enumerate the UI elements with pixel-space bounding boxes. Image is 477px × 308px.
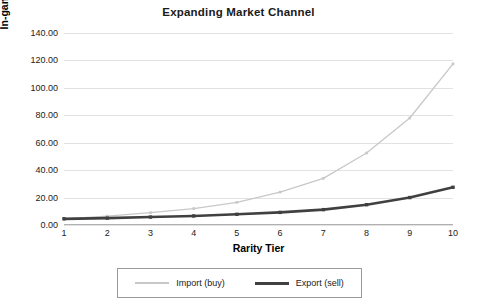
data-point-marker: [278, 211, 281, 214]
y-tick-label: 120.00: [30, 55, 58, 65]
y-tick-label: 60.00: [35, 138, 58, 148]
data-point-marker: [149, 211, 152, 214]
data-point-marker: [106, 216, 109, 219]
data-point-marker: [408, 117, 411, 120]
x-tick-label: 8: [364, 228, 369, 238]
chart-legend: Import (buy) Export (sell): [117, 268, 362, 298]
plot-area: [64, 33, 453, 225]
data-point-marker: [192, 207, 195, 210]
x-tick-label: 10: [448, 228, 458, 238]
y-axis-tick-labels: 0.0020.0040.0060.0080.00100.00120.00140.…: [0, 33, 58, 225]
legend-swatch-export-icon: [255, 282, 289, 285]
series-line: [64, 187, 453, 219]
data-point-marker: [451, 186, 454, 189]
y-tick-label: 20.00: [35, 193, 58, 203]
y-tick-label: 40.00: [35, 165, 58, 175]
data-point-marker: [452, 63, 455, 66]
data-point-marker: [365, 203, 368, 206]
data-point-marker: [149, 215, 152, 218]
chart-title: Expanding Market Channel: [0, 6, 477, 18]
x-tick-label: 7: [321, 228, 326, 238]
legend-swatch-import-icon: [135, 282, 169, 284]
x-axis-tick-labels: 12345678910: [64, 228, 453, 242]
x-axis-title: Rarity Tier: [64, 242, 453, 254]
legend-item-export[interactable]: Export (sell): [255, 278, 344, 288]
legend-label-import: Import (buy): [176, 278, 225, 288]
series-line: [64, 64, 453, 219]
data-point-marker: [322, 208, 325, 211]
legend-item-import[interactable]: Import (buy): [135, 278, 225, 288]
chart-container: Expanding Market Channel In-game Pricing…: [0, 0, 477, 308]
data-point-marker: [279, 191, 282, 194]
y-tick-label: 0.00: [40, 220, 58, 230]
data-point-marker: [408, 196, 411, 199]
x-tick-label: 4: [191, 228, 196, 238]
data-point-marker: [192, 214, 195, 217]
data-point-marker: [322, 177, 325, 180]
y-tick-label: 100.00: [30, 83, 58, 93]
data-point-marker: [236, 201, 239, 204]
legend-label-export: Export (sell): [296, 278, 344, 288]
data-point-marker: [365, 152, 368, 155]
x-tick-label: 6: [278, 228, 283, 238]
x-tick-label: 5: [234, 228, 239, 238]
x-tick-label: 1: [61, 228, 66, 238]
y-tick-label: 80.00: [35, 110, 58, 120]
data-point-marker: [62, 217, 65, 220]
series-layer: [64, 33, 453, 225]
x-tick-label: 9: [407, 228, 412, 238]
gridline: [64, 225, 453, 226]
data-point-marker: [235, 213, 238, 216]
y-tick-label: 140.00: [30, 28, 58, 38]
x-tick-label: 2: [105, 228, 110, 238]
x-tick-label: 3: [148, 228, 153, 238]
